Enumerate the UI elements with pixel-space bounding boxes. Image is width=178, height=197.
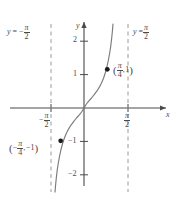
marked-point-neg-pi-over-4 [58, 138, 63, 143]
x-tick-label-pi-over-2: π2 [124, 112, 130, 129]
x-tick-neg-fraction: π2 [44, 112, 50, 129]
point2-fraction: π4 [17, 140, 23, 157]
point2-close-paren: ) [34, 142, 38, 154]
asymptote-right-lhs: y [133, 27, 137, 36]
asymptote-left-denominator: 2 [24, 33, 30, 41]
y-tick-label-neg1: −1 [68, 137, 77, 145]
point-label-pi-over-4: (π4, 1) [113, 62, 133, 79]
y-tick-label-2: 2 [73, 36, 77, 44]
asymptote-left-fraction: π2 [24, 24, 30, 41]
marked-point-pi-over-4 [105, 67, 110, 72]
x-axis-label: x [166, 111, 170, 119]
y-tick-label-1: 1 [73, 70, 77, 78]
x-tick-label-neg-pi-over-2: −π2 [39, 112, 50, 129]
asymptote-label-left: y = −π2 [7, 24, 30, 41]
point2-denominator: 4 [17, 149, 23, 157]
x-tick-pos-denominator: 2 [124, 121, 130, 129]
point-label-neg-pi-over-4: (−π4, −1) [9, 140, 38, 157]
asymptote-left-lhs: y [7, 27, 11, 36]
point1-fraction: π4 [117, 62, 123, 79]
point1-close-paren: ) [129, 64, 133, 76]
y-axis-arrow-icon [81, 22, 86, 28]
asymptote-right-fraction: π2 [143, 24, 149, 41]
asymptote-left-equals: = [13, 27, 18, 36]
point1-denominator: 4 [117, 71, 123, 79]
asymptote-right-denominator: 2 [143, 33, 149, 41]
asymptote-label-right: y =π2 [133, 24, 149, 41]
tangent-function-graph: y = −π2 y =π2 y x 2 1 −1 −2 −π2 π2 (π4, … [0, 0, 178, 197]
x-tick-neg-denominator: 2 [44, 121, 50, 129]
x-tick-pos-fraction: π2 [124, 112, 130, 129]
y-tick-label-neg2: −2 [68, 170, 77, 178]
y-axis-label: y [76, 22, 80, 30]
